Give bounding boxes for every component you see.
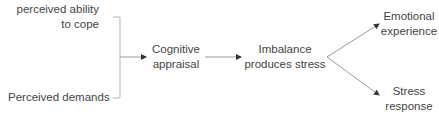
arrow-to-stress-response	[327, 57, 379, 95]
node-stress-response-line2: response	[380, 99, 438, 114]
node-imbalance-line1: Imbalance	[243, 42, 327, 57]
arrow-to-emotional	[327, 24, 379, 57]
node-stress-response-line1: Stress	[380, 84, 438, 99]
node-perceived-demands: Perceived demands	[8, 90, 110, 105]
node-emotional-experience: Emotional experience	[380, 9, 438, 39]
node-emotional-experience-line2: experience	[380, 24, 438, 39]
node-imbalance-line2: produces stress	[243, 57, 327, 72]
node-perceived-ability: perceived ability to cope	[0, 2, 99, 32]
input-bracket	[113, 17, 120, 98]
node-cognitive-appraisal: Cognitive appraisal	[150, 42, 202, 72]
node-cognitive-appraisal-line1: Cognitive	[150, 42, 202, 57]
stress-model-diagram: perceived ability to cope Perceived dema…	[0, 0, 439, 117]
node-perceived-demands-line1: Perceived demands	[8, 90, 110, 105]
node-emotional-experience-line1: Emotional	[380, 9, 438, 24]
node-perceived-ability-line2: to cope	[0, 17, 99, 32]
node-imbalance: Imbalance produces stress	[243, 42, 327, 72]
node-cognitive-appraisal-line2: appraisal	[150, 57, 202, 72]
node-stress-response: Stress response	[380, 84, 438, 114]
node-perceived-ability-line1: perceived ability	[0, 2, 99, 17]
